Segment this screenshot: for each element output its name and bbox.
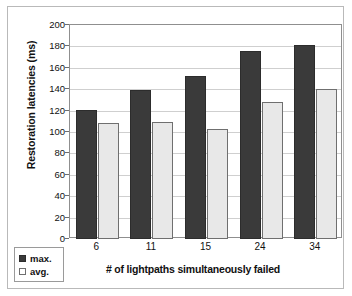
y-tick-label: 120 <box>41 104 65 115</box>
bar-avg-15 <box>207 129 228 239</box>
y-tick-mark <box>65 174 69 175</box>
y-tick-mark <box>65 88 69 89</box>
bar-avg-24 <box>262 102 283 239</box>
bar-max-6 <box>76 110 97 239</box>
bar-group <box>240 25 283 239</box>
legend-swatch-max-icon <box>19 255 26 262</box>
y-tick-mark <box>65 110 69 111</box>
y-tick-mark <box>65 238 69 239</box>
bar-group <box>76 25 119 239</box>
y-tick-mark <box>65 24 69 25</box>
bar-max-15 <box>185 76 206 239</box>
y-tick-mark <box>65 131 69 132</box>
bar-max-11 <box>130 90 151 239</box>
legend-item-max: max. <box>19 252 60 264</box>
bar-avg-6 <box>98 123 119 239</box>
y-tick-label: 0 <box>41 233 65 244</box>
x-axis-tick-labels: 611152434 <box>69 241 342 255</box>
y-tick-label: 140 <box>41 83 65 94</box>
y-tick-mark <box>65 195 69 196</box>
legend-label-avg: avg. <box>30 266 49 277</box>
y-axis-title: Restoration latencies (ms) <box>25 20 37 190</box>
x-tick-label: 34 <box>293 241 337 252</box>
x-tick-label: 24 <box>238 241 282 252</box>
y-tick-label: 40 <box>41 190 65 201</box>
y-tick-mark <box>65 217 69 218</box>
bar-group <box>130 25 173 239</box>
y-tick-mark <box>65 152 69 153</box>
legend-label-max: max. <box>30 253 52 264</box>
legend-item-avg: avg. <box>19 265 60 277</box>
bar-max-24 <box>240 51 261 239</box>
y-tick-label: 180 <box>41 40 65 51</box>
bar-avg-34 <box>316 89 337 239</box>
chart-legend: max. avg. <box>14 247 64 282</box>
x-tick-label: 11 <box>129 241 173 252</box>
x-tick-label: 6 <box>74 241 118 252</box>
legend-swatch-avg-icon <box>19 268 26 275</box>
x-tick-label: 15 <box>184 241 228 252</box>
y-tick-label: 200 <box>41 19 65 30</box>
y-tick-label: 60 <box>41 168 65 179</box>
y-axis-tick-labels: 200180160140120100806040200 <box>37 24 65 238</box>
bar-group <box>294 25 337 239</box>
y-tick-mark <box>65 67 69 68</box>
plot-area <box>69 24 342 238</box>
bars-layer <box>70 25 343 239</box>
y-tick-label: 160 <box>41 61 65 72</box>
bar-group <box>185 25 228 239</box>
bar-max-34 <box>294 45 315 239</box>
bar-avg-11 <box>152 122 173 239</box>
y-tick-label: 80 <box>41 147 65 158</box>
x-axis-title: # of lightpaths simultaneously failed <box>48 263 338 275</box>
y-tick-label: 100 <box>41 126 65 137</box>
bar-chart-figure: Restoration latencies (ms) 2001801601401… <box>7 6 344 289</box>
y-tick-mark <box>65 45 69 46</box>
y-tick-label: 20 <box>41 211 65 222</box>
